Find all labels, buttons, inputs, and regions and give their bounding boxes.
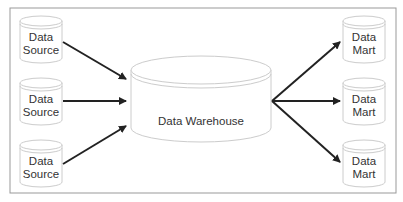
warehouse-label: Data Warehouse bbox=[131, 115, 271, 128]
arrow-source1-to-warehouse bbox=[63, 42, 126, 79]
diagram-canvas: Data Source Data Source Data Source Data… bbox=[0, 0, 403, 202]
mart-label-3-line2: Mart bbox=[343, 168, 385, 181]
source-label-1: Data Source bbox=[20, 31, 62, 57]
warehouse-cylinder bbox=[131, 56, 271, 142]
source-label-1-line2: Source bbox=[20, 44, 62, 57]
arrow-warehouse-to-mart1 bbox=[272, 42, 340, 101]
source-label-3-line2: Source bbox=[20, 168, 62, 181]
mart-label-2-line2: Mart bbox=[343, 106, 385, 119]
mart-label-1: Data Mart bbox=[343, 31, 385, 57]
arrow-warehouse-to-mart3 bbox=[272, 101, 340, 162]
mart-label-2: Data Mart bbox=[343, 93, 385, 119]
source-label-2-line2: Source bbox=[20, 106, 62, 119]
source-label-3-line1: Data bbox=[20, 155, 62, 168]
mart-label-3-line1: Data bbox=[343, 155, 385, 168]
mart-label-1-line1: Data bbox=[343, 31, 385, 44]
arrow-source3-to-warehouse bbox=[63, 126, 126, 164]
source-label-1-line1: Data bbox=[20, 31, 62, 44]
mart-label-1-line2: Mart bbox=[343, 44, 385, 57]
mart-label-3: Data Mart bbox=[343, 155, 385, 181]
mart-label-2-line1: Data bbox=[343, 93, 385, 106]
source-label-2: Data Source bbox=[20, 93, 62, 119]
source-label-3: Data Source bbox=[20, 155, 62, 181]
source-label-2-line1: Data bbox=[20, 93, 62, 106]
